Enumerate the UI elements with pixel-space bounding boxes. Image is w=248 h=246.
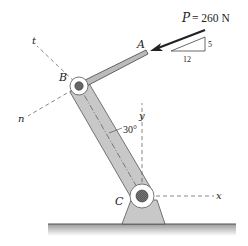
point-b-label: B bbox=[58, 71, 67, 84]
force-label-symbol: P bbox=[181, 11, 191, 25]
rod-ba bbox=[79, 50, 148, 89]
pin-c bbox=[130, 184, 154, 208]
slope-rise-label: 5 bbox=[208, 40, 212, 49]
slope-triangle bbox=[171, 37, 205, 51]
x-axis-label: x bbox=[216, 190, 222, 201]
t-axis-label: t bbox=[32, 35, 37, 46]
y-axis-label: y bbox=[138, 110, 145, 121]
diagram-canvas: P = 260 N 5 12 A B C t n y x 30° bbox=[0, 0, 248, 246]
point-c-label: C bbox=[115, 195, 124, 208]
slope-run-label: 12 bbox=[183, 55, 191, 64]
member-bc bbox=[70, 80, 152, 201]
point-a-label: A bbox=[136, 38, 145, 51]
angle-label: 30° bbox=[123, 124, 137, 135]
pin-b bbox=[70, 77, 88, 95]
n-axis-label: n bbox=[18, 113, 24, 124]
force-label-value: = 260 N bbox=[192, 12, 230, 24]
ground bbox=[48, 224, 236, 236]
